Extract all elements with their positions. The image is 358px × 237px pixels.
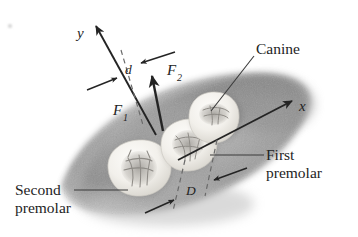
scan-artifact-speck — [8, 24, 12, 28]
big-d-dimension-label: D — [185, 183, 196, 198]
canine-label: Canine — [256, 40, 300, 57]
f2-label: F — [166, 62, 177, 78]
d-left-arrow — [87, 78, 117, 90]
f2-subscript: 2 — [177, 72, 182, 83]
d-dimension-label: d — [125, 62, 132, 77]
first-premolar-label-line2: premolar — [266, 164, 323, 181]
x-axis-label: x — [298, 98, 306, 114]
f1-label: F — [112, 102, 123, 118]
orthodontic-force-figure: y x F 2 F 1 d — [0, 0, 358, 237]
first-premolar-label-line1: First — [266, 146, 295, 163]
second-premolar-label-line2: premolar — [15, 199, 72, 216]
second-premolar-label-line1: Second — [15, 181, 61, 198]
dimension-d: d — [87, 52, 175, 90]
y-axis-label: y — [75, 25, 84, 41]
f1-subscript: 1 — [123, 112, 128, 123]
figure-canvas: y x F 2 F 1 d — [0, 0, 358, 237]
